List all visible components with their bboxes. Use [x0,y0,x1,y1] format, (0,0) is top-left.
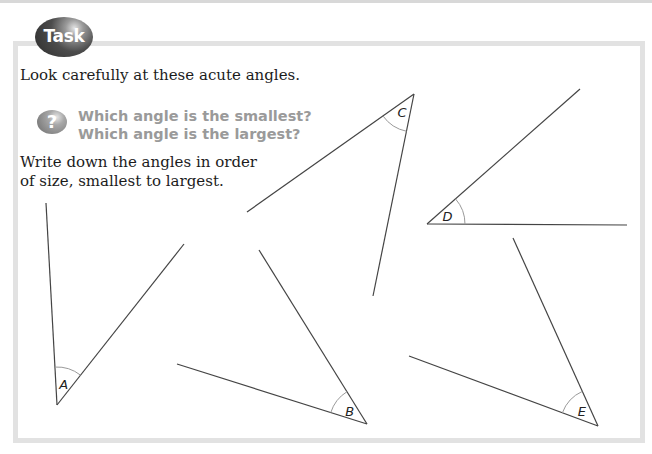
angle-b-label: B [345,404,354,419]
angle-e: E [409,238,598,426]
angle-c-arm-2 [373,94,414,296]
task-badge-label: Task [35,26,93,46]
angle-e-arm-2 [409,356,598,426]
angle-d-arm-1 [427,89,580,224]
angle-d: D [427,89,627,225]
angle-c-arm-1 [247,94,414,212]
angle-b: B [177,250,367,424]
task-badge-icon: Task [35,17,93,57]
angle-a: A [46,203,184,405]
angle-c-label: C [397,105,407,120]
angle-b-arm-2 [177,364,367,424]
angle-b-arm-1 [259,250,367,424]
angle-a-arm-2 [57,244,184,405]
angle-d-label: D [443,209,453,224]
angle-a-arm-1 [46,203,57,405]
angle-e-label: E [578,404,587,419]
angles-diagram: ABCDE [0,0,652,454]
angle-a-label: A [58,377,68,392]
angle-d-arm-2 [427,224,627,225]
angle-d-arc [455,199,465,224]
angle-a-arc [55,367,81,375]
angle-c: C [247,94,414,296]
angle-e-arm-1 [513,238,598,426]
